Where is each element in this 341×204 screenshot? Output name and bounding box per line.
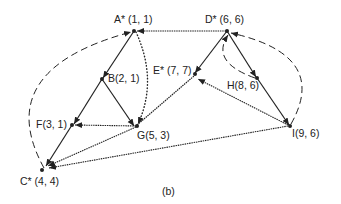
node-C [40,168,44,172]
node-D [225,29,229,33]
edge-B-F [74,79,102,124]
node-label-D: D* (6, 6) [205,14,244,25]
figure-caption: (b) [162,186,175,197]
edge-B-G [102,79,134,126]
node-label-F: F(3, 1) [36,119,67,130]
node-B [100,77,104,81]
edge-D-E [195,31,227,73]
node-G [135,124,139,128]
node-label-H: H(8, 6) [227,80,259,91]
edge-F-C [46,125,72,166]
edge-H-D [223,35,255,78]
graph-diagram: A* (1, 1) B(2, 1) C* (4, 4) D* (6, 6) E*… [0,0,341,204]
node-F [70,123,74,127]
node-label-B: B(2, 1) [108,73,140,84]
node-label-C: C* (4, 4) [20,176,59,187]
wavy-edges [48,31,288,168]
node-E [193,72,197,76]
node-A [132,29,136,33]
edge-D-H [227,31,256,77]
edge-G-F [75,125,136,126]
graph-canvas [0,0,341,204]
node-label-E: E* (7, 7) [153,65,192,76]
node-label-G: G(5, 3) [137,130,170,141]
edge-A-B [103,31,134,78]
node-label-I: I(9, 6) [292,128,319,139]
node-label-A: A* (1, 1) [114,14,153,25]
